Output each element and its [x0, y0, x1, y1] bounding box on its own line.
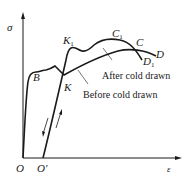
point-d1-label: D1 — [142, 55, 155, 69]
y-axis-arrow-icon — [21, 12, 25, 19]
leader-before — [78, 70, 88, 84]
y-axis-label: σ — [7, 21, 13, 33]
point-k1-label: K1 — [62, 34, 74, 48]
before-cold-drawn-label: Before cold drawn — [83, 89, 157, 100]
point-c-label: C — [136, 36, 144, 48]
origin-label: O — [16, 162, 24, 174]
point-b-label: B — [33, 71, 40, 83]
origin-prime-label: O' — [37, 162, 48, 174]
x-axis-label: ε — [167, 164, 171, 174]
point-d-label: D — [155, 48, 164, 60]
reload-arrow-icon — [56, 109, 62, 128]
curve-before-cold-drawn — [23, 50, 156, 158]
stress-strain-diagram: σ ε O O' B K K1 C1 C D D1 After cold dra… — [0, 0, 186, 181]
axes — [21, 12, 182, 160]
after-cold-drawn-label: After cold drawn — [102, 70, 170, 81]
point-k-label: K — [63, 81, 72, 93]
point-c1-label: C1 — [112, 27, 123, 41]
x-axis-arrow-icon — [175, 156, 182, 160]
unload-arrow-icon — [42, 118, 48, 137]
